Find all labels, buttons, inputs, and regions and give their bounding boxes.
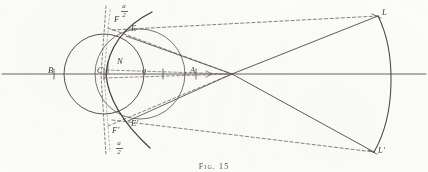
angle-fraction-bottom: a 2 — [112, 140, 126, 157]
dashed-chord-to-L-prime — [112, 120, 374, 152]
solid-ray-to-L-prime — [232, 74, 374, 152]
label-F-prime: F' — [112, 126, 119, 135]
figure-caption: Fig. 15 — [0, 162, 428, 171]
dashed-vertical-chord — [101, 6, 106, 156]
angle-fraction-bottom-denominator: 2 — [112, 149, 126, 156]
dashed-ray-from-N-upper — [106, 70, 232, 74]
tick-at-L-prime — [368, 150, 377, 154]
label-B: B — [48, 66, 53, 75]
label-E: E — [131, 24, 136, 33]
dashed-chord-to-L — [112, 16, 378, 30]
figure-container: B C N q A F E F' E' L L' a 2 a 2 Fig. 15 — [0, 0, 428, 172]
label-L-prime: L' — [378, 146, 385, 155]
label-N: N — [117, 57, 123, 66]
dashed-ray-lower-incident — [108, 74, 232, 126]
geometric-diagram-svg — [0, 0, 428, 172]
angle-fraction-bottom-numerator: a — [112, 140, 126, 147]
label-E-prime: E' — [131, 119, 138, 128]
label-L: L — [382, 8, 387, 17]
label-q: q — [142, 66, 146, 75]
dashed-ray-from-C-lower — [104, 74, 232, 78]
label-A: A — [190, 66, 195, 75]
solid-ray-to-L — [232, 16, 378, 74]
image-arc-LL-prime — [374, 16, 391, 152]
angle-fraction-top-numerator: a — [117, 3, 131, 10]
angle-fraction-top: a 2 — [117, 3, 131, 20]
label-C: C — [97, 66, 103, 75]
angle-fraction-top-denominator: 2 — [117, 12, 131, 19]
